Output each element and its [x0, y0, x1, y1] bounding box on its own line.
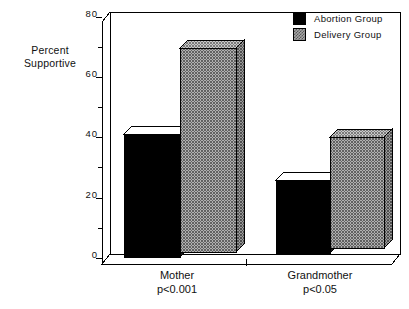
bar-grandmother-delivery-group[interactable] [330, 129, 392, 248]
y-axis-line [102, 12, 110, 264]
bar-grandmother-abortion-group[interactable] [276, 172, 338, 253]
legend-swatch-delivery-group-icon [293, 28, 306, 41]
y-tick-label-40: 40 [72, 128, 98, 139]
chart-figure: Percent Supportive 80 60 40 20 0 [0, 0, 409, 309]
x-category-name-mother: Mother [122, 268, 232, 282]
y-tick-label-60: 60 [72, 68, 98, 79]
chart-floor [102, 254, 400, 264]
legend-label-abortion-group: Abortion Group [314, 12, 383, 25]
chart-back-wall [110, 12, 400, 254]
legend-item-delivery-group[interactable]: Delivery Group [293, 28, 383, 41]
y-tick-label-80: 80 [72, 8, 98, 19]
x-category-name-grandmother: Grandmother [260, 268, 380, 282]
bar-mother-abortion-group[interactable] [124, 126, 188, 257]
x-category-pvalue-mother: p<0.001 [122, 282, 232, 296]
legend-swatch-abortion-group-icon [293, 12, 306, 25]
chart-legend: Abortion Group Delivery Group [293, 12, 383, 44]
y-axis-title-line1: Percent [4, 44, 96, 57]
legend-label-delivery-group: Delivery Group [314, 28, 382, 41]
x-category-label-grandmother: Grandmother p<0.05 [260, 268, 380, 296]
y-tick-label-20: 20 [72, 189, 98, 200]
x-category-pvalue-grandmother: p<0.05 [260, 282, 380, 296]
y-tick-label-0: 0 [72, 249, 98, 260]
x-category-label-mother: Mother p<0.001 [122, 268, 232, 296]
bar-mother-delivery-group[interactable] [180, 40, 244, 252]
legend-item-abortion-group[interactable]: Abortion Group [293, 12, 383, 25]
y-axis-title: Percent Supportive [4, 44, 96, 70]
